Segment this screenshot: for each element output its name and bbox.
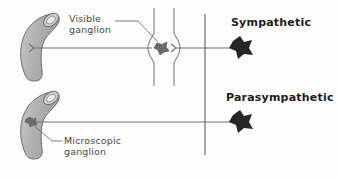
label-visible-ganglion-line2: ganglion: [69, 24, 111, 35]
label-visible-ganglion-line1: Visible: [69, 13, 101, 24]
diagram-canvas: Visibleganglion Microscopicganglion Symp…: [0, 0, 338, 178]
label-visible-ganglion: Visibleganglion: [69, 14, 111, 35]
label-sympathetic: Sympathetic: [231, 17, 311, 29]
visible-ganglion: [154, 42, 169, 55]
label-microscopic-ganglion-line2: ganglion: [64, 146, 106, 157]
arrowhead-icon-ganglion: [171, 44, 176, 52]
label-parasympathetic: Parasympathetic: [226, 92, 334, 104]
effector-parasympathetic: [229, 110, 253, 133]
leader-line-visible-ganglion: [115, 21, 158, 42]
effector-sympathetic: [229, 36, 253, 59]
label-microscopic-ganglion-line1: Microscopic: [64, 135, 121, 146]
label-microscopic-ganglion: Microscopicganglion: [64, 136, 121, 157]
organ-lower: [21, 88, 61, 159]
organ-upper: [21, 10, 61, 81]
